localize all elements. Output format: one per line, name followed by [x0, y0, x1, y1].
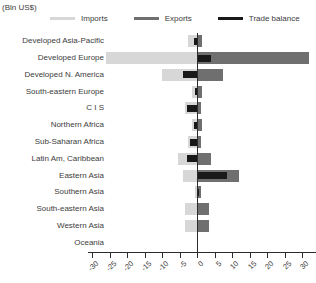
bar-exports-developed-n-america — [197, 69, 223, 81]
x-tick-label-25: 25 — [281, 259, 293, 271]
bar-exports-south-eastern-asia — [197, 203, 209, 215]
bar-trade-balance-developed-europe — [197, 55, 211, 62]
x-tick--20 — [127, 253, 128, 258]
category-label-oceania: Oceania — [74, 238, 104, 247]
bar-trade-balance-eastern-asia — [197, 172, 227, 179]
category-label-northern-africa: Northern Africa — [51, 120, 104, 129]
category-label-latin-am-caribbean: Latin Am, Caribbean — [32, 154, 105, 163]
x-tick-0 — [197, 253, 198, 258]
bar-trade-balance-sub-saharan-africa — [190, 139, 197, 146]
x-tick--10 — [162, 253, 163, 258]
chart-container: (Bln US$) ImportsExportsTrade balance De… — [0, 0, 316, 283]
x-tick--25 — [110, 253, 111, 258]
category-label-eastern-asia: Eastern Asia — [59, 171, 104, 180]
bar-imports-developed-europe — [106, 52, 197, 64]
x-tick-25 — [285, 253, 286, 258]
x-tick-15 — [250, 253, 251, 258]
bar-exports-developed-europe — [197, 52, 309, 64]
plot-area: Developed Asia-PacificDeveloped EuropeDe… — [0, 0, 316, 283]
x-tick-label-10: 10 — [228, 259, 240, 271]
bar-imports-western-asia — [185, 220, 197, 232]
x-tick-label--25: -25 — [104, 259, 118, 273]
zero-baseline — [197, 33, 198, 253]
x-tick-label-20: 20 — [263, 259, 275, 271]
category-label-developed-asia-pacific: Developed Asia-Pacific — [22, 36, 104, 45]
x-tick-20 — [267, 253, 268, 258]
x-tick-label-0: 0 — [196, 259, 205, 268]
category-label-sub-saharan-africa: Sub-Saharan Africa — [35, 137, 104, 146]
bar-exports-latin-am-caribbean — [197, 153, 211, 165]
category-label-c-i-s: C I S — [86, 103, 104, 112]
x-tick-label--15: -15 — [139, 259, 153, 273]
category-label-south-eastern-asia: South-eastern Asia — [36, 204, 104, 213]
x-tick--5 — [180, 253, 181, 258]
x-tick--15 — [145, 253, 146, 258]
bar-trade-balance-developed-n-america — [183, 71, 197, 78]
bar-trade-balance-c-i-s — [187, 105, 198, 112]
category-label-developed-europe: Developed Europe — [38, 53, 104, 62]
x-tick-label--10: -10 — [156, 259, 170, 273]
x-tick-5 — [215, 253, 216, 258]
category-label-south-eastern-europe: South-eastern Europe — [26, 87, 104, 96]
x-tick-label-5: 5 — [214, 259, 223, 268]
x-tick-label-30: 30 — [298, 259, 310, 271]
category-label-developed-n-america: Developed N. America — [24, 70, 104, 79]
bar-exports-western-asia — [197, 220, 209, 232]
x-tick--30 — [92, 253, 93, 258]
x-tick-10 — [232, 253, 233, 258]
category-label-southern-asia: Southern Asia — [54, 187, 104, 196]
x-tick-30 — [302, 253, 303, 258]
x-tick-label--30: -30 — [86, 259, 100, 273]
category-label-western-asia: Western Asia — [57, 221, 104, 230]
x-tick-label-15: 15 — [246, 259, 258, 271]
x-axis-line — [88, 252, 316, 253]
bar-imports-south-eastern-asia — [185, 203, 197, 215]
x-tick-label--20: -20 — [121, 259, 135, 273]
bar-imports-eastern-asia — [183, 170, 197, 182]
x-tick-label--5: -5 — [177, 259, 188, 270]
bar-trade-balance-latin-am-caribbean — [187, 155, 198, 162]
